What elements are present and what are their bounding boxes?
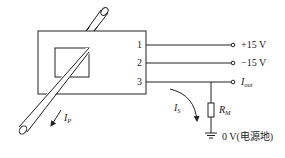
primary-current-arrow [51, 110, 61, 126]
terminal-neg15 [231, 61, 235, 65]
terminal-pos15-label: +15 V [241, 39, 267, 50]
ground-label: 0 V(电源地) [222, 130, 273, 143]
primary-current-label: IP [63, 112, 71, 124]
pin-2-label: 2 [137, 57, 142, 68]
ground-icon [205, 133, 217, 138]
resistor-rm [208, 103, 214, 117]
terminal-iout-label: Iout [240, 76, 253, 88]
terminal-iout [231, 80, 235, 84]
terminal-pos15 [231, 43, 235, 47]
secondary-current-label: IS [173, 102, 181, 114]
sensor-housing [38, 31, 146, 94]
primary-conductor-front [15, 26, 98, 136]
current-sensor-diagram: 1 2 3 +15 V −15 V Iout RM 0 V(电源地) IS IP [0, 0, 285, 158]
terminal-neg15-label: −15 V [241, 57, 267, 68]
pin-3-label: 3 [137, 76, 142, 87]
pin-1-label: 1 [137, 39, 142, 50]
resistor-rm-label: RM [218, 104, 231, 116]
